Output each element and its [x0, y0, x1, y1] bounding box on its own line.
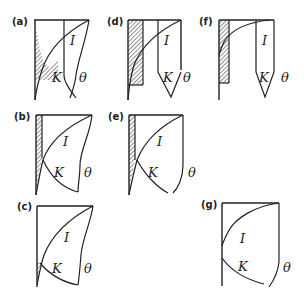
I-curve	[129, 115, 183, 195]
K-label: K	[162, 70, 174, 85]
panel-e: (e) I K θ	[108, 111, 196, 195]
K-label: K	[51, 261, 63, 276]
I-label: I	[163, 33, 170, 48]
theta-label: θ	[84, 261, 92, 276]
theta-label: θ	[79, 70, 87, 85]
panel-d: (d) I K θ	[107, 16, 191, 100]
K-label: K	[237, 259, 249, 274]
I-label: I	[156, 134, 163, 149]
panel-label: (f)	[199, 16, 213, 27]
theta-curve	[70, 20, 89, 98]
theta-label: θ	[283, 260, 291, 275]
I-label: I	[69, 33, 76, 48]
panel-g: (g) I K θ	[201, 199, 291, 287]
figure: (a) I K θ (d) I K θ (f) I	[0, 0, 304, 299]
I-curve	[222, 203, 279, 246]
panel-label: (d)	[107, 16, 123, 27]
panel-c: (c) I K θ	[17, 201, 93, 287]
K-label: K	[51, 70, 63, 85]
panel-label: (e)	[108, 111, 124, 122]
panel-label: (a)	[12, 16, 28, 27]
theta-label: θ	[84, 165, 92, 180]
panel-f: (f) I K θ	[199, 16, 289, 100]
theta-curve	[78, 115, 92, 192]
I-label: I	[239, 231, 246, 246]
panel-label: (g)	[201, 199, 217, 210]
I-curve	[36, 115, 92, 195]
panel-label: (b)	[14, 111, 30, 122]
theta-curve	[269, 262, 279, 287]
theta-curve	[173, 165, 183, 193]
panel-b: (b) I K θ	[14, 111, 92, 195]
theta-label: θ	[188, 165, 196, 180]
K-label: K	[258, 70, 270, 85]
I-label: I	[261, 33, 268, 48]
I-label: I	[62, 134, 69, 149]
K-label: K	[147, 165, 159, 180]
I-label: I	[63, 230, 70, 245]
K-label: K	[53, 165, 65, 180]
theta-label: θ	[281, 70, 289, 85]
panel-a: (a) I K θ	[12, 16, 89, 100]
panel-label: (c)	[17, 201, 32, 212]
theta-label: θ	[183, 70, 191, 85]
